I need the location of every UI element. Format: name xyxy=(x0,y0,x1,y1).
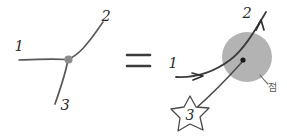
left-trivalent-vertex-group xyxy=(19,22,103,104)
right-label-1: 1 xyxy=(168,55,177,71)
gray-disk xyxy=(222,32,272,82)
left-label-2: 2 xyxy=(100,8,110,24)
star-to-point-line xyxy=(194,62,242,110)
equals-accessible-text: = xyxy=(138,60,139,61)
right-label-2: 2 xyxy=(241,5,251,21)
diagram-svg: 1 2 3 = xyxy=(0,0,287,136)
left-label-3: 3 xyxy=(60,97,69,113)
diagram-canvas: 1 2 3 = xyxy=(0,0,287,136)
left-edge-1 xyxy=(19,59,68,60)
left-edge-2 xyxy=(68,22,103,60)
interior-point-dot xyxy=(240,57,245,62)
disk-annotation-label: 점 xyxy=(268,82,277,93)
star-label-3: 3 xyxy=(186,107,195,123)
left-label-1: 1 xyxy=(14,38,23,54)
left-vertex-dot xyxy=(64,55,72,63)
equals-sign xyxy=(127,55,150,66)
